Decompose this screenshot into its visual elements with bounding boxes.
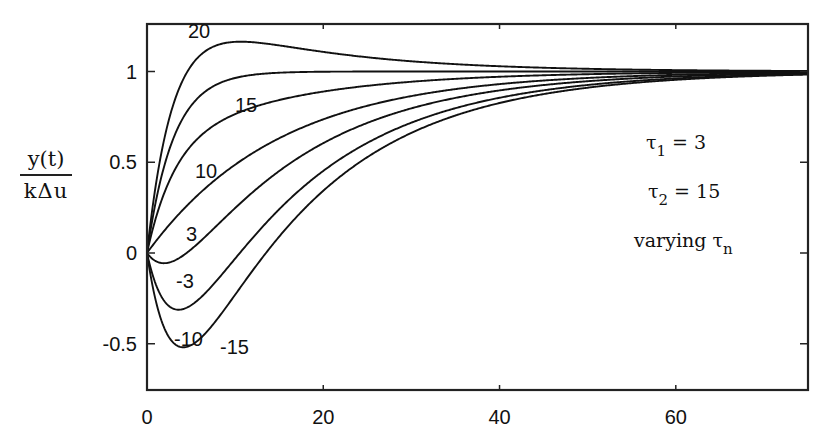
curve-label: 15 (235, 94, 257, 116)
varying-text: varying (634, 229, 712, 251)
y-label-numerator: y(t) (20, 146, 72, 176)
y-tick-label: -0.5 (103, 333, 137, 355)
tau2-value: = 15 (668, 180, 720, 202)
y-axis-label: y(t) kΔu (14, 146, 78, 206)
subscript: 1 (657, 142, 667, 160)
tau-symbol: τ (648, 180, 659, 202)
tau-symbol: τ (646, 131, 657, 153)
curve-label: 20 (188, 20, 210, 42)
tau2-annotation: τ2 = 15 (612, 171, 782, 220)
y-label-denominator: kΔu (14, 176, 78, 206)
x-tick-label: 20 (312, 406, 334, 428)
subscript: 2 (659, 191, 669, 209)
tau1-annotation: τ1 = 3 (612, 122, 782, 171)
parameter-annotation: τ1 = 3 τ2 = 15 varying τn (612, 122, 782, 269)
varying-taun-annotation: varying τn (612, 220, 782, 269)
x-tick-label: 60 (665, 406, 687, 428)
y-tick-label: 0 (126, 242, 137, 264)
tau-symbol: τ (712, 229, 723, 251)
curve-label: -3 (176, 270, 194, 292)
y-tick-label: 1 (126, 61, 137, 83)
curve-label: -15 (220, 336, 249, 358)
y-tick-label: 0.5 (109, 151, 137, 173)
curve-label: -10 (174, 328, 203, 350)
curve-label: 10 (195, 160, 217, 182)
curve-label: 3 (186, 223, 197, 245)
tau1-value: = 3 (666, 131, 706, 153)
x-tick-label: 0 (141, 406, 152, 428)
x-tick-label: 40 (488, 406, 510, 428)
subscript: n (723, 240, 733, 258)
